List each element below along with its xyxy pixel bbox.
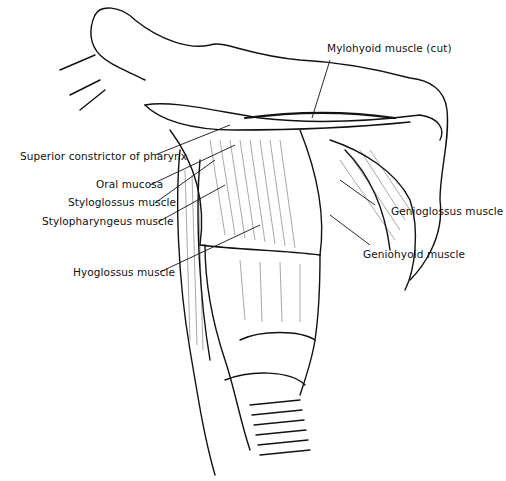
label-mylohyoid-muscle: Mylohyoid muscle (cut)	[327, 42, 452, 54]
label-genioglossus-muscle: Genioglossus muscle	[391, 205, 503, 217]
label-hyoglossus-muscle: Hyoglossus muscle	[73, 266, 175, 278]
label-oral-mucosa: Oral mucosa	[96, 178, 163, 190]
label-styloglossus-muscle: Styloglossus muscle	[68, 196, 176, 208]
label-superior-constrictor: Superior constrictor of pharynx	[20, 150, 187, 162]
tongue-dorsum	[145, 104, 442, 140]
label-geniohyoid-muscle: Geniohyoid muscle	[363, 248, 465, 260]
tongue-muscles-illustration	[0, 0, 506, 481]
label-stylopharyngeus-muscle: Stylopharyngeus muscle	[42, 215, 174, 227]
